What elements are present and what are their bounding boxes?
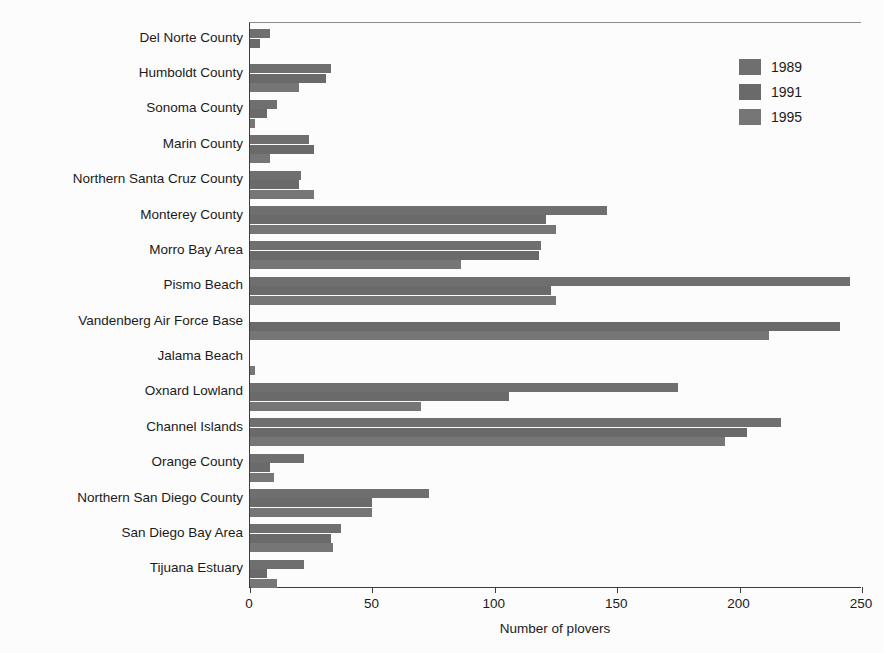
y-axis-label: Humboldt County: [0, 66, 243, 80]
bar: [250, 83, 299, 92]
bar: [250, 383, 678, 392]
x-axis-tick-label: 50: [364, 596, 379, 611]
y-axis-label: Jalama Beach: [0, 349, 243, 363]
bar: [250, 498, 372, 507]
bar: [250, 206, 607, 215]
bar: [250, 190, 314, 199]
legend-swatch-icon: [739, 84, 761, 100]
bar: [250, 322, 840, 331]
bar: [250, 64, 331, 73]
y-axis-category-labels: Del Norte CountyHumboldt CountySonoma Co…: [0, 22, 243, 588]
y-axis-label: Vandenberg Air Force Base: [0, 314, 243, 328]
bar: [250, 241, 541, 250]
x-axis-tick: [250, 587, 251, 593]
x-axis-tick: [862, 587, 863, 593]
y-axis-label: Monterey County: [0, 208, 243, 222]
bar-group: [250, 306, 861, 341]
bar-group: [250, 341, 861, 376]
x-axis-tick-label: 250: [850, 596, 873, 611]
bar: [250, 418, 781, 427]
bar: [250, 154, 270, 163]
bar-group: [250, 412, 861, 447]
bar-group: [250, 377, 861, 412]
bar-group: [250, 483, 861, 518]
x-axis-tick-label: 100: [483, 596, 506, 611]
bar-group: [250, 448, 861, 483]
y-axis-label: Orange County: [0, 455, 243, 469]
bar: [250, 135, 309, 144]
bar: [250, 534, 331, 543]
x-axis-title: Number of plovers: [249, 621, 861, 636]
bar: [250, 560, 304, 569]
y-axis-label: Northern Santa Cruz County: [0, 172, 243, 186]
legend-item: 1995: [739, 104, 859, 129]
bar: [250, 225, 556, 234]
bar-group: [250, 554, 861, 589]
bar: [250, 402, 421, 411]
bar: [250, 366, 255, 375]
x-axis-tick-label: 0: [245, 596, 253, 611]
bar: [250, 296, 556, 305]
bar: [250, 180, 299, 189]
x-axis-tick: [617, 587, 618, 593]
bar: [250, 171, 301, 180]
legend-item-label: 1989: [771, 59, 802, 75]
bar: [250, 260, 461, 269]
y-axis-label: Morro Bay Area: [0, 243, 243, 257]
bar-group: [250, 165, 861, 200]
legend-item-label: 1995: [771, 109, 802, 125]
y-axis-label: Pismo Beach: [0, 278, 243, 292]
bar: [250, 39, 260, 48]
bar-group: [250, 129, 861, 164]
bar: [250, 508, 372, 517]
bar: [250, 473, 274, 482]
bar: [250, 331, 769, 340]
bar: [250, 109, 267, 118]
bar: [250, 569, 267, 578]
y-axis-label: Del Norte County: [0, 31, 243, 45]
bar: [250, 215, 546, 224]
x-axis-tick-label: 200: [727, 596, 750, 611]
bar-group: [250, 200, 861, 235]
bar-group: [250, 235, 861, 270]
bar: [250, 437, 725, 446]
x-axis-tick: [495, 587, 496, 593]
x-axis-tick: [740, 587, 741, 593]
bar: [250, 277, 850, 286]
x-axis-tick: [372, 587, 373, 593]
legend-item: 1989: [739, 54, 859, 79]
bar: [250, 145, 314, 154]
legend-item: 1991: [739, 79, 859, 104]
y-axis-label: Oxnard Lowland: [0, 384, 243, 398]
y-axis-label: San Diego Bay Area: [0, 526, 243, 540]
bar: [250, 579, 277, 588]
legend-item-label: 1991: [771, 84, 802, 100]
bar: [250, 489, 429, 498]
bar: [250, 543, 333, 552]
bar: [250, 524, 341, 533]
y-axis-label: Northern San Diego County: [0, 491, 243, 505]
y-axis-label: Sonoma County: [0, 101, 243, 115]
bar: [250, 463, 270, 472]
x-axis-tick-label: 150: [605, 596, 628, 611]
legend-swatch-icon: [739, 109, 761, 125]
bar: [250, 454, 304, 463]
y-axis-label: Tijuana Estuary: [0, 561, 243, 575]
bar-chart: Del Norte CountyHumboldt CountySonoma Co…: [0, 0, 884, 653]
y-axis-label: Marin County: [0, 137, 243, 151]
bar-group: [250, 518, 861, 553]
bar: [250, 286, 551, 295]
bar: [250, 251, 539, 260]
bar: [250, 74, 326, 83]
bar: [250, 119, 255, 128]
legend-swatch-icon: [739, 59, 761, 75]
bar: [250, 428, 747, 437]
y-axis-label: Channel Islands: [0, 420, 243, 434]
bar: [250, 100, 277, 109]
bar: [250, 29, 270, 38]
legend: 1989 1991 1995: [739, 54, 859, 129]
bar: [250, 392, 509, 401]
bar-group: [250, 271, 861, 306]
